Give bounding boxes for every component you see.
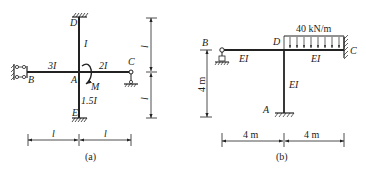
node-label-C: C	[128, 56, 135, 67]
moment-arrow-icon	[82, 64, 91, 84]
figure-a: D I 3I 2I C B A M 1.5I E l l l l (a)	[11, 13, 157, 163]
diagram-canvas: D I 3I 2I C B A M 1.5I E l l l l (a)	[0, 0, 366, 176]
node-label-A: A	[70, 74, 78, 85]
fixed-support-icon	[72, 118, 87, 122]
dim-label-horizontal-right: l	[104, 128, 107, 139]
member-label-BD: EI	[238, 53, 249, 64]
node-label-B: B	[202, 37, 208, 48]
dim-label-vertical-bottom: l	[139, 97, 150, 100]
caption-a: (a)	[85, 151, 96, 163]
node-label-D: D	[272, 36, 281, 47]
node-label-D: D	[69, 17, 78, 28]
member-label-AB: 3I	[47, 60, 57, 71]
caption-b: (b)	[276, 151, 288, 163]
member-label-AD: I	[83, 38, 88, 49]
horizontal-dimension	[28, 134, 131, 146]
fixed-support-icon	[344, 35, 348, 59]
member-label-AC: 2I	[99, 60, 108, 71]
node-label-A: A	[262, 104, 270, 115]
node-label-B: B	[28, 74, 34, 85]
horizontal-dimension	[222, 133, 344, 147]
fixed-support-icon	[275, 113, 294, 117]
dim-label-horizontal-right: 4 m	[304, 129, 320, 140]
distributed-load-icon	[284, 36, 344, 49]
member-label-AE: 1.5I	[81, 95, 98, 106]
vertical-dimension	[146, 18, 157, 118]
member-label-DA: EI	[288, 79, 299, 90]
moment-label-M: M	[90, 81, 100, 92]
dim-label-vertical-top: l	[139, 45, 150, 48]
dim-label-horizontal-left: 4 m	[243, 129, 259, 140]
guided-support-icon	[11, 64, 27, 80]
member-label-DC: EI	[310, 53, 321, 64]
node-label-E: E	[71, 107, 78, 118]
figure-b: 40 kN/m D B C EI EI EI A 4 m 4 m 4 m (b)	[196, 23, 357, 163]
dim-label-vertical: 4 m	[196, 77, 207, 93]
node-label-C: C	[350, 45, 357, 56]
dim-label-horizontal-left: l	[52, 128, 55, 139]
load-label: 40 kN/m	[296, 23, 332, 34]
